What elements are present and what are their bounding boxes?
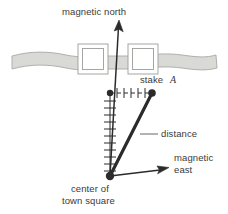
label-distance: distance	[161, 128, 197, 139]
label-magnetic-north: magnetic north	[62, 6, 126, 17]
label-stake-a-letter: A	[169, 74, 177, 85]
label-stake-a-prefix: stake	[140, 74, 163, 85]
label-magnetic-east-line1: magnetic	[174, 152, 213, 163]
label-center-line1: center of	[71, 183, 109, 194]
building-square-right	[128, 44, 158, 74]
label-center-line2: town square	[62, 195, 115, 206]
building-square-left	[78, 44, 108, 74]
diagram-canvas: magnetic north stake A distance magnetic…	[0, 0, 228, 214]
building-right-inner	[133, 49, 154, 70]
scale-top-node-dot	[107, 90, 113, 96]
surveying-diagram: magnetic north stake A distance magnetic…	[0, 0, 228, 214]
label-stake-a: stake A	[140, 74, 177, 85]
building-left-inner	[83, 49, 104, 70]
label-magnetic-east-line2: east	[174, 164, 193, 175]
center-node-dot	[106, 172, 114, 180]
stake-node-dot	[148, 89, 156, 97]
